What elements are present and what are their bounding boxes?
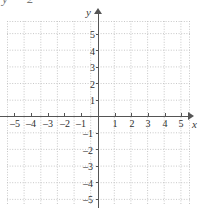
y-tick-label: 2 xyxy=(81,79,95,90)
y-tickmark xyxy=(96,83,99,84)
y-tickmark xyxy=(96,166,99,167)
y-tickmark xyxy=(96,133,99,134)
y-tickmark xyxy=(96,100,99,101)
x-tick-label: –5 xyxy=(7,118,23,129)
equation-fragment-label: y = 2 xyxy=(2,0,35,7)
x-tickmark xyxy=(131,113,132,116)
x-tick-label: –3 xyxy=(40,118,56,129)
x-axis-name-label: x xyxy=(192,118,197,130)
x-tick-label: 5 xyxy=(173,118,189,129)
y-axis-arrow-icon xyxy=(94,8,102,14)
x-tickmark xyxy=(165,113,166,116)
y-tickmark xyxy=(96,149,99,150)
x-tickmark xyxy=(115,113,116,116)
y-tick-label: –4 xyxy=(79,178,93,189)
x-axis-line xyxy=(0,116,190,117)
y-tickmark xyxy=(96,182,99,183)
y-tick-label: 4 xyxy=(81,46,95,57)
y-tick-label: –5 xyxy=(79,194,93,205)
y-tick-label: –3 xyxy=(79,161,93,172)
x-tickmark xyxy=(14,113,15,116)
x-tickmark xyxy=(64,113,65,116)
y-tick-label: 3 xyxy=(81,62,95,73)
x-tick-label: 3 xyxy=(140,118,156,129)
x-tickmark xyxy=(148,113,149,116)
y-axis-line xyxy=(98,12,99,208)
x-tick-label: 1 xyxy=(107,118,123,129)
y-tick-label: –2 xyxy=(79,145,93,156)
x-tickmark xyxy=(181,113,182,116)
coordinate-grid-figure: y = 2 xyxy=(0,0,203,211)
x-tick-label: 4 xyxy=(157,118,173,129)
y-tick-label: 5 xyxy=(81,29,95,40)
x-tick-label: –4 xyxy=(23,118,39,129)
y-tick-label: 1 xyxy=(81,95,95,106)
y-axis-name-label: y xyxy=(86,6,91,18)
y-tickmark xyxy=(96,34,99,35)
y-tickmark xyxy=(96,50,99,51)
y-tick-label: –1 xyxy=(79,128,93,139)
x-tickmark xyxy=(81,113,82,116)
x-tick-label: 2 xyxy=(124,118,140,129)
x-tickmark xyxy=(48,113,49,116)
y-tickmark xyxy=(96,199,99,200)
y-tickmark xyxy=(96,67,99,68)
x-tick-label: –2 xyxy=(57,118,73,129)
x-tickmark xyxy=(31,113,32,116)
